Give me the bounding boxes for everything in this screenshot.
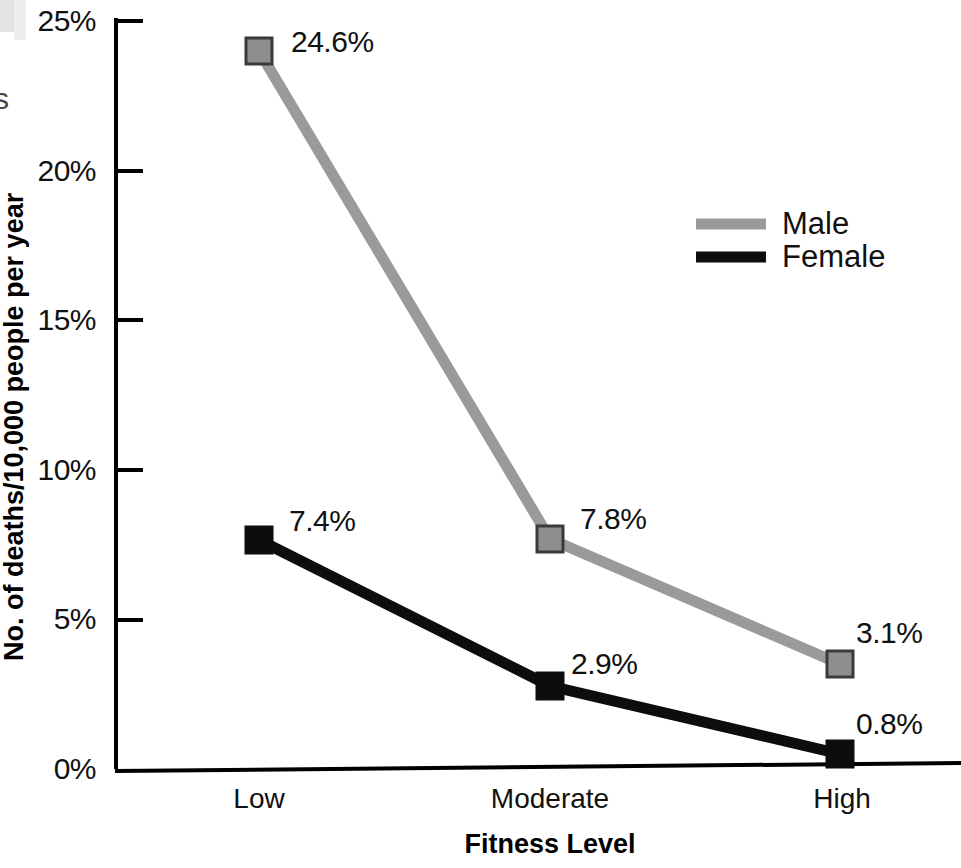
chart-canvas	[0, 0, 961, 868]
legend-label-female: Female	[782, 239, 885, 275]
marker-male-high	[827, 651, 853, 677]
marker-female-low	[246, 527, 272, 553]
marker-female-moderate	[537, 673, 563, 699]
x-axis-title: Fitness Level	[400, 829, 700, 860]
x-tick-label-low: Low	[189, 783, 329, 815]
data-label-male-high: 3.1%	[856, 616, 922, 650]
chart-page: s No. of deaths/10,000 people per year 2…	[0, 0, 961, 868]
data-label-female-moderate: 2.9%	[571, 647, 637, 681]
legend-label-male: Male	[782, 206, 849, 242]
data-label-female-high: 0.8%	[856, 707, 922, 741]
data-label-male-low: 24.6%	[291, 25, 374, 59]
x-tick-label-moderate: Moderate	[470, 783, 630, 815]
x-tick-label-high: High	[772, 783, 912, 815]
marker-male-low	[246, 38, 272, 64]
marker-female-high	[827, 741, 853, 767]
series-line-male	[259, 51, 840, 664]
data-label-male-moderate: 7.8%	[580, 502, 646, 536]
data-label-female-low: 7.4%	[289, 504, 355, 538]
series-line-female	[259, 540, 840, 754]
marker-male-moderate	[537, 526, 563, 552]
